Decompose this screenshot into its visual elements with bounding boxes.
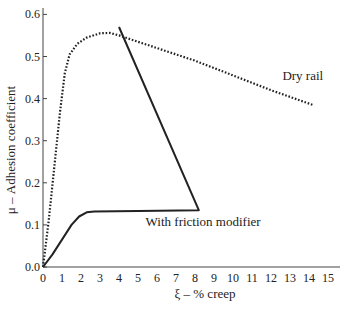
series-lines (43, 27, 313, 267)
x-tick-label: 12 (265, 271, 277, 285)
x-tick-label: 4 (116, 271, 122, 285)
x-tick-label: 1 (59, 271, 65, 285)
y-tick-label: 0.3 (25, 134, 40, 148)
x-tick-label: 13 (284, 271, 296, 285)
y-tick-label: 0.4 (25, 92, 40, 106)
x-tick-label: 5 (135, 271, 141, 285)
x-tick-label: 2 (78, 271, 84, 285)
x-axis-label: ξ – % creep (174, 286, 235, 301)
x-tick-label: 6 (154, 271, 160, 285)
x-tick-label: 7 (173, 271, 179, 285)
x-tick-label: 9 (211, 271, 217, 285)
x-tick-label: 8 (192, 271, 198, 285)
y-tick-label: 0.1 (25, 218, 40, 232)
y-tick-label: 0.6 (25, 7, 40, 21)
y-axis-label: μ – Adhesion coefficient (3, 85, 18, 214)
y-tick-label: 0.0 (25, 260, 40, 274)
x-tick-label: 14 (303, 271, 315, 285)
x-tick-label: 0 (40, 271, 46, 285)
axes: 0.00.10.20.30.40.50.60123456789101112131… (25, 7, 340, 285)
x-tick-label: 15 (322, 271, 334, 285)
dry-rail-line (43, 33, 313, 267)
y-tick-label: 0.5 (25, 50, 40, 64)
friction-modifier-label: With friction modifier (146, 214, 262, 229)
x-tick-label: 3 (97, 271, 103, 285)
y-tick-label: 0.2 (25, 176, 40, 190)
x-tick-label: 10 (227, 271, 239, 285)
adhesion-chart: 0.00.10.20.30.40.50.60123456789101112131… (0, 0, 356, 309)
dry-rail-label: Dry rail (282, 68, 323, 83)
x-tick-label: 11 (246, 271, 258, 285)
